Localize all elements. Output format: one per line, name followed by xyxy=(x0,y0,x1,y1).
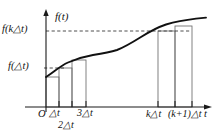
rectangle-bar-3 xyxy=(72,60,86,107)
y-label-f-k-delta-t: f(k△t) xyxy=(2,24,28,35)
riemann-sum-figure: f(k△t) f(△t) f(t) O △t 2△t 3△t k△t (k+1)… xyxy=(0,0,219,140)
x-label-k-plus-1-delta-t: (k+1)△t xyxy=(168,109,202,119)
y-axis-arrow-icon xyxy=(43,9,48,16)
rectangle-group-left xyxy=(46,60,86,107)
rectangle-bar-2 xyxy=(59,68,72,107)
x-label-delta-t: △t xyxy=(49,108,60,118)
y-label-f-delta-t: f(△t) xyxy=(8,61,29,72)
rectangle-group-right xyxy=(158,26,192,107)
figure-canvas xyxy=(0,0,219,140)
rectangle-bar-k-plus-1 xyxy=(175,26,192,107)
x-label-k-delta-t: k△t xyxy=(146,109,161,119)
x-label-3-delta-t: 3△t xyxy=(77,108,93,118)
function-label: f(t) xyxy=(55,11,68,22)
origin-label: O xyxy=(38,109,46,120)
rectangle-bar-1 xyxy=(46,77,59,107)
x-label-2-delta-t: 2△t xyxy=(58,120,74,130)
x-axis-label: t xyxy=(204,109,207,120)
rectangle-bar-k xyxy=(158,31,175,107)
